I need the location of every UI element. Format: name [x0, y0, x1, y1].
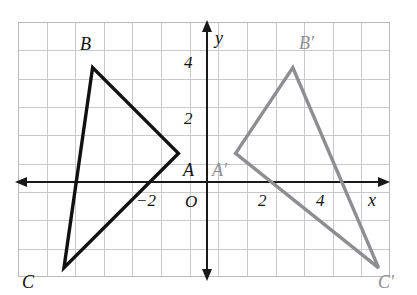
vertex-label-b: B	[80, 34, 91, 54]
coordinate-plane-figure: B C A B′ A′ C′ 4 2 −2 2 4 O x y	[0, 0, 417, 295]
y-tick-label-4: 4	[184, 53, 193, 72]
x-tick-label-neg2: −2	[136, 191, 156, 210]
y-axis-arrow-up-icon	[202, 20, 212, 32]
x-axis-arrow-left-icon	[15, 177, 27, 187]
vertex-label-c-prime: C′	[378, 272, 395, 292]
x-tick-label-4: 4	[316, 191, 325, 210]
vertex-label-a: A	[182, 160, 195, 180]
x-axis-arrow-right-icon	[378, 177, 390, 187]
vertex-label-b-prime: B′	[299, 33, 315, 53]
origin-label: O	[185, 192, 197, 211]
y-axis-label: y	[213, 28, 223, 48]
x-tick-label-2: 2	[258, 191, 267, 210]
grid	[18, 22, 390, 277]
y-axis-arrow-down-icon	[202, 269, 212, 281]
x-axis-label: x	[367, 190, 376, 210]
y-tick-label-2: 2	[184, 109, 193, 128]
vertex-label-a-prime: A′	[211, 160, 228, 180]
triangle-a-prime-b-prime-c-prime	[236, 68, 379, 268]
vertex-label-c: C	[22, 272, 35, 292]
coordinate-plane-svg: B C A B′ A′ C′ 4 2 −2 2 4 O x y	[0, 0, 417, 295]
